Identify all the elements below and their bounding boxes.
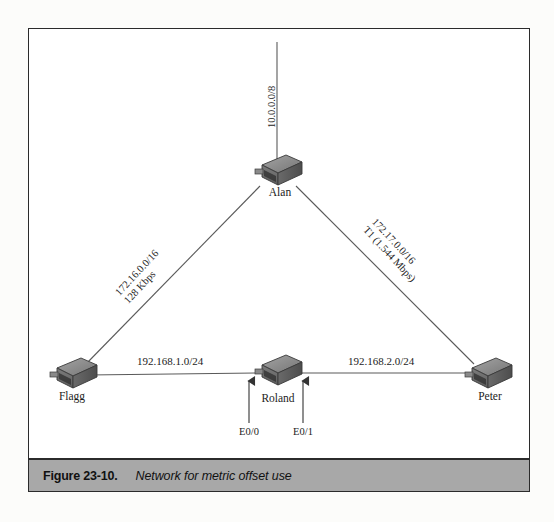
link-label-alan-cloud: 10.0.0.0/8	[266, 86, 277, 128]
link-label-flagg-roland: 192.168.1.0/24	[137, 355, 203, 367]
node-label-flagg: Flagg	[42, 390, 102, 402]
interface-label-e0-0: E0/0	[229, 426, 269, 437]
node-label-roland: Roland	[248, 392, 308, 404]
link-label-roland-peter: 192.168.2.0/24	[348, 355, 414, 367]
figure-caption-number: Figure 23-10.	[43, 469, 118, 483]
figure-frame	[28, 28, 530, 492]
node-label-alan: Alan	[250, 186, 310, 198]
figure-caption-text: Network for metric offset use	[136, 469, 292, 483]
interface-label-e0-1: E0/1	[283, 426, 323, 437]
node-label-peter: Peter	[460, 390, 520, 402]
figure-caption-bar: Figure 23-10. Network for metric offset …	[28, 458, 530, 492]
